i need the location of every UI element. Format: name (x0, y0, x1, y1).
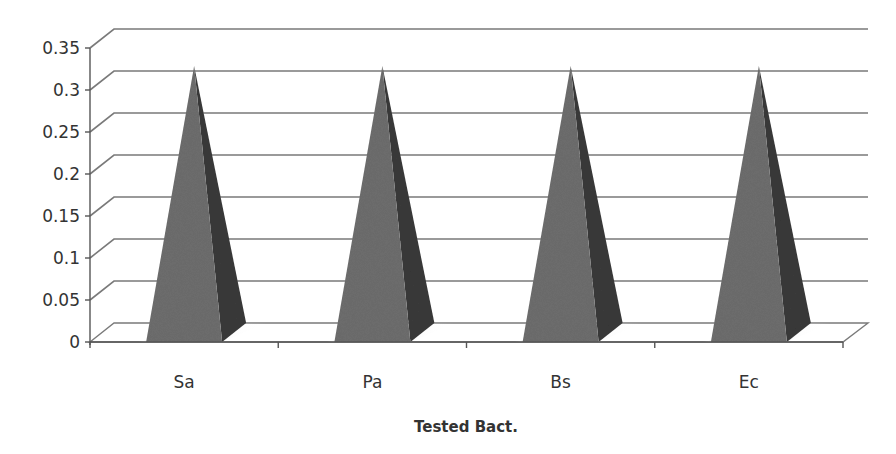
y-tick-label: 0.15 (42, 206, 80, 226)
x-category-label: Bs (550, 372, 571, 392)
x-axis-title: Tested Bact. (414, 418, 518, 436)
x-axis: SaPaBsEc (90, 342, 843, 392)
y-tick-label: 0.1 (53, 248, 80, 268)
x-category-label: Pa (362, 372, 382, 392)
y-tick-label: 0.35 (42, 38, 80, 58)
y-axis: 00.050.10.150.20.250.30.35 (42, 38, 90, 352)
gridline (90, 29, 868, 48)
pyramid-chart: 00.050.10.150.20.250.30.35 SaPaBsEc Test… (0, 0, 896, 454)
x-category-label: Sa (174, 372, 195, 392)
gridline (90, 71, 868, 90)
pyramids (138, 66, 831, 342)
y-tick-label: 0 (69, 332, 80, 352)
x-category-label: Ec (739, 372, 759, 392)
y-tick-label: 0.25 (42, 122, 80, 142)
y-tick-label: 0.3 (53, 80, 80, 100)
y-tick-label: 0.05 (42, 290, 80, 310)
y-tick-label: 0.2 (53, 164, 80, 184)
